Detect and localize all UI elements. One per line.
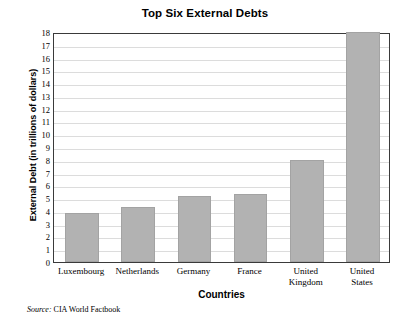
- bar[interactable]: [234, 194, 268, 262]
- bar[interactable]: [290, 160, 324, 262]
- x-axis-title: Countries: [53, 289, 390, 300]
- y-axis-tick-label: 18: [24, 29, 50, 37]
- x-axis-tick-label-line: United: [334, 266, 390, 277]
- x-axis-tick-label: Netherlands: [109, 266, 165, 277]
- y-axis-tick-label: 3: [24, 221, 50, 229]
- x-axis-tick-label: Germany: [165, 266, 221, 277]
- y-axis-tick-label: 1: [24, 246, 50, 254]
- bar[interactable]: [65, 213, 99, 262]
- x-axis-tick-label-line: Luxembourg: [53, 266, 109, 277]
- y-axis-tick-label: 11: [24, 118, 50, 126]
- source-note: Source: CIA World Factbook: [27, 305, 120, 314]
- y-axis-tick-label: 2: [24, 233, 50, 241]
- bar[interactable]: [346, 32, 380, 262]
- y-axis-tick-label: 16: [24, 55, 50, 63]
- y-axis-tick-label: 12: [24, 106, 50, 114]
- x-axis-tick-label-line: States: [334, 277, 390, 288]
- y-axis-tick-label: 17: [24, 42, 50, 50]
- y-axis-tick-label: 6: [24, 182, 50, 190]
- x-axis-tick-label: UnitedKingdom: [278, 266, 334, 288]
- bar[interactable]: [121, 207, 155, 262]
- y-axis-tick-label: 8: [24, 157, 50, 165]
- x-axis-tick-label: UnitedStates: [334, 266, 390, 288]
- y-axis-tick-label: 4: [24, 208, 50, 216]
- x-axis-tick-label-line: Kingdom: [278, 277, 334, 288]
- y-axis-tick-label: 0: [24, 259, 50, 267]
- y-axis-tick-label: 7: [24, 170, 50, 178]
- y-axis-tick-labels: 1817161514131211109876543210: [24, 33, 50, 263]
- bars-layer: [54, 34, 389, 262]
- plot-area: [53, 33, 390, 263]
- y-axis-tick-label: 15: [24, 67, 50, 75]
- x-axis-tick-label-line: Germany: [165, 266, 221, 277]
- y-axis-tick-label: 10: [24, 131, 50, 139]
- y-axis-tick-label: 5: [24, 195, 50, 203]
- source-text: CIA World Factbook: [54, 305, 121, 314]
- y-axis-tick-label: 14: [24, 80, 50, 88]
- chart-title: Top Six External Debts: [0, 7, 410, 19]
- x-axis-tick-label-line: Netherlands: [109, 266, 165, 277]
- source-label: Source:: [27, 305, 52, 314]
- x-axis-tick-label-line: France: [222, 266, 278, 277]
- y-axis-tick-label: 13: [24, 93, 50, 101]
- x-axis-tick-label: France: [222, 266, 278, 277]
- bar[interactable]: [178, 196, 212, 262]
- y-axis-tick-label: 9: [24, 144, 50, 152]
- x-axis-tick-label-line: United: [278, 266, 334, 277]
- x-axis-tick-label: Luxembourg: [53, 266, 109, 277]
